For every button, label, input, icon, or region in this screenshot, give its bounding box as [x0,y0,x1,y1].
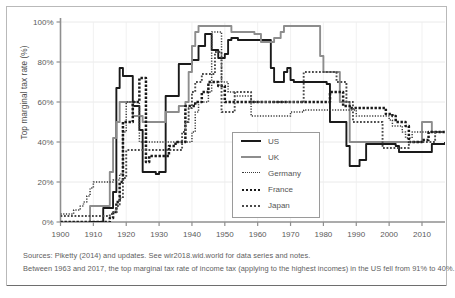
legend-item-us: US [233,133,319,149]
footer-sources: Sources: Piketty (2014) and updates. See… [7,250,446,286]
svg-text:1930: 1930 [150,230,168,239]
svg-text:20%: 20% [37,178,53,187]
legend-label-japan: Japan [268,201,290,210]
legend-item-uk: UK [233,149,319,165]
svg-text:100%: 100% [33,18,53,27]
legend-swatch-france [241,185,261,195]
svg-text:40%: 40% [37,138,53,147]
footer-divider [7,285,446,286]
plot-area: Top marginal tax rate (%) 0%20%40%60%80%… [0,0,455,248]
legend-item-france: France [233,182,319,198]
svg-text:80%: 80% [37,58,53,67]
svg-text:1990: 1990 [347,230,365,239]
svg-text:1900: 1900 [52,230,70,239]
legend-swatch-us [241,136,261,146]
svg-text:1920: 1920 [117,230,135,239]
chart-page: Top marginal tax rate (%) 0%20%40%60%80%… [0,0,455,298]
sources-line: Sources: Piketty (2014) and updates. See… [7,250,446,263]
legend-swatch-japan [241,201,261,211]
legend-swatch-germany [241,168,261,178]
legend-label-france: France [268,185,293,194]
legend-label-uk: UK [268,153,279,162]
y-axis-label: Top marginal tax rate (%) [20,23,29,163]
svg-text:1940: 1940 [183,230,201,239]
svg-text:1950: 1950 [216,230,234,239]
svg-text:2000: 2000 [380,230,398,239]
svg-text:2010: 2010 [413,230,431,239]
chart-svg: 0%20%40%60%80%100%1900191019201930194019… [0,0,455,248]
note-line: Between 1963 and 2017, the top marginal … [7,263,446,276]
legend-label-germany: Germany [268,169,301,178]
svg-text:1960: 1960 [249,230,267,239]
svg-text:1910: 1910 [84,230,102,239]
legend-swatch-uk [241,152,261,162]
legend-item-germany: Germany [233,165,319,181]
legend-label-us: US [268,137,279,146]
svg-text:60%: 60% [37,98,53,107]
chart-legend: US UK Germany France Japan [232,132,320,218]
svg-text:1980: 1980 [315,230,333,239]
legend-item-japan: Japan [233,198,319,214]
svg-text:0%: 0% [42,218,54,227]
svg-text:1970: 1970 [282,230,300,239]
